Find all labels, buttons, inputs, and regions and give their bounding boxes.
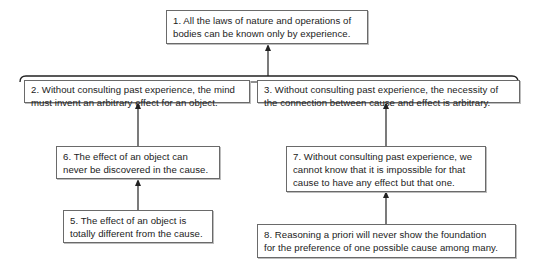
claim-8-line: for the preference of one possible cause…	[264, 241, 509, 254]
claim-2-line: 2. Without consulting past experience, t…	[31, 83, 243, 96]
claim-8-box: 8. Reasoning a priori will never show th…	[257, 224, 516, 258]
claim-1-box: 1. All the laws of nature and operations…	[166, 10, 368, 44]
claim-3-line: 3. Without consulting past experience, t…	[264, 83, 513, 96]
arrowhead-icon	[135, 179, 141, 186]
claim-7-box: 7. Without consulting past experience, w…	[286, 146, 486, 192]
claim-7-line: cannot know that it is impossible for th…	[293, 163, 479, 176]
claim-7-line: cause to have any effect but that one.	[293, 176, 479, 189]
claim-5-line: totally different from the cause.	[70, 227, 206, 240]
arrowhead-icon	[383, 191, 389, 198]
claim-2-line: must invent an arbitrary effect for an o…	[31, 96, 243, 109]
claim-6-line: 6. The effect of an object can	[63, 150, 213, 163]
claim-1-line: 1. All the laws of nature and operations…	[173, 14, 361, 27]
claim-5-box: 5. The effect of an object is totally di…	[63, 210, 213, 243]
arrowhead-icon	[265, 44, 271, 51]
claim-7-line: 7. Without consulting past experience, w…	[293, 150, 479, 163]
claim-6-box: 6. The effect of an object can never be …	[56, 146, 220, 179]
claim-3-line: the connection between cause and effect …	[264, 96, 513, 109]
claim-5-line: 5. The effect of an object is	[70, 214, 206, 227]
claim-8-line: 8. Reasoning a priori will never show th…	[264, 228, 509, 241]
claim-2-box: 2. Without consulting past experience, t…	[24, 80, 250, 103]
claim-1-line: bodies can be known only by experience.	[173, 27, 361, 40]
claim-6-line: never be discovered in the cause.	[63, 163, 213, 176]
claim-3-box: 3. Without consulting past experience, t…	[257, 80, 520, 103]
